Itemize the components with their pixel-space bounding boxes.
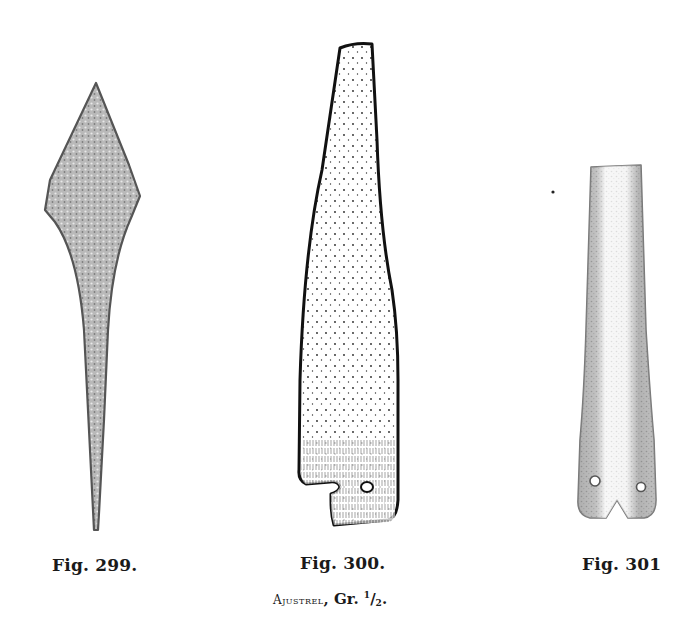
artifact-drawings [0,0,696,642]
scale-fraction: 1/2 [364,590,382,608]
figure-299-drawing [45,83,140,530]
figure-301-caption: Fig. 301 [582,554,661,574]
scale-prefix: Gr. [334,590,359,608]
figure-300-caption: Fig. 300. [300,553,385,573]
figure-300-drawing [299,44,398,526]
figure-299-caption: Fig. 299. [52,555,137,575]
figure-301-drawing [578,165,656,518]
plate-scale-caption: Ajustrel, Gr. 1/2. [273,590,387,608]
illustration-plate: Fig. 299. Fig. 300. Fig. 301 Ajustrel, G… [0,0,696,642]
stray-ink-dot [551,190,554,193]
site-name: Ajustrel [273,593,324,607]
site-comma: , [324,590,334,608]
